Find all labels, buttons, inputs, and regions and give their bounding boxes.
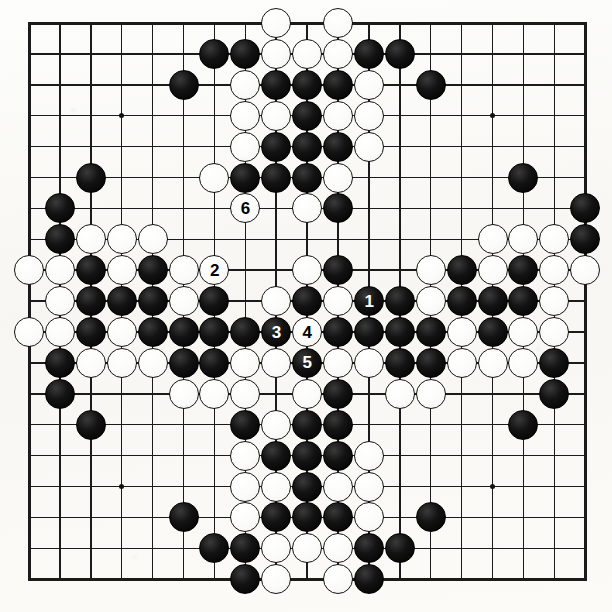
black-stone[interactable] [169, 348, 199, 378]
white-stone[interactable] [292, 255, 322, 285]
black-stone[interactable] [261, 70, 291, 100]
white-stone[interactable] [539, 317, 569, 347]
white-stone[interactable] [478, 348, 508, 378]
black-stone[interactable] [292, 101, 322, 131]
white-stone[interactable] [539, 255, 569, 285]
white-stone[interactable] [323, 564, 353, 594]
black-stone[interactable] [385, 286, 415, 316]
black-stone[interactable] [570, 224, 600, 254]
black-stone[interactable] [76, 317, 106, 347]
white-stone[interactable] [261, 348, 291, 378]
white-stone[interactable] [230, 379, 260, 409]
white-stone[interactable] [230, 441, 260, 471]
white-stone[interactable] [169, 255, 199, 285]
black-stone[interactable] [230, 410, 260, 440]
move-stone-2[interactable]: 2 [199, 255, 229, 285]
black-stone[interactable] [138, 286, 168, 316]
white-stone[interactable] [230, 132, 260, 162]
white-stone[interactable] [323, 39, 353, 69]
black-stone[interactable] [447, 286, 477, 316]
white-stone[interactable] [107, 255, 137, 285]
black-stone[interactable] [385, 39, 415, 69]
black-stone[interactable] [323, 441, 353, 471]
black-stone[interactable] [323, 132, 353, 162]
black-stone[interactable] [138, 317, 168, 347]
black-stone[interactable] [508, 410, 538, 440]
white-stone[interactable] [478, 255, 508, 285]
black-stone[interactable] [45, 379, 75, 409]
white-stone[interactable] [354, 502, 384, 532]
black-stone[interactable] [354, 39, 384, 69]
white-stone[interactable] [354, 348, 384, 378]
white-stone[interactable] [45, 317, 75, 347]
black-stone[interactable] [508, 286, 538, 316]
black-stone[interactable] [230, 39, 260, 69]
white-stone[interactable] [570, 255, 600, 285]
white-stone[interactable] [447, 317, 477, 347]
black-stone[interactable] [416, 502, 446, 532]
black-stone[interactable] [230, 533, 260, 563]
black-stone[interactable] [292, 410, 322, 440]
white-stone[interactable] [478, 224, 508, 254]
black-stone[interactable] [416, 70, 446, 100]
white-stone[interactable] [261, 286, 291, 316]
black-stone[interactable] [199, 286, 229, 316]
black-stone[interactable] [354, 317, 384, 347]
black-stone[interactable] [508, 163, 538, 193]
black-stone[interactable] [478, 317, 508, 347]
black-stone[interactable] [199, 39, 229, 69]
black-stone[interactable] [323, 410, 353, 440]
white-stone[interactable] [323, 8, 353, 38]
white-stone[interactable] [261, 410, 291, 440]
black-stone[interactable] [323, 317, 353, 347]
white-stone[interactable] [416, 255, 446, 285]
white-stone[interactable] [323, 533, 353, 563]
black-stone[interactable] [76, 286, 106, 316]
white-stone[interactable] [230, 472, 260, 502]
white-stone[interactable] [107, 348, 137, 378]
black-stone[interactable] [169, 502, 199, 532]
white-stone[interactable] [385, 379, 415, 409]
white-stone[interactable] [292, 533, 322, 563]
move-stone-3[interactable]: 3 [261, 317, 291, 347]
black-stone[interactable] [261, 163, 291, 193]
white-stone[interactable] [323, 163, 353, 193]
black-stone[interactable] [385, 533, 415, 563]
white-stone[interactable] [107, 317, 137, 347]
white-stone[interactable] [354, 101, 384, 131]
black-stone[interactable] [261, 502, 291, 532]
black-stone[interactable] [199, 533, 229, 563]
black-stone[interactable] [354, 564, 384, 594]
black-stone[interactable] [230, 564, 260, 594]
black-stone[interactable] [539, 348, 569, 378]
white-stone[interactable] [45, 286, 75, 316]
black-stone[interactable] [138, 255, 168, 285]
black-stone[interactable] [539, 379, 569, 409]
white-stone[interactable] [539, 286, 569, 316]
black-stone[interactable] [230, 163, 260, 193]
white-stone[interactable] [447, 348, 477, 378]
black-stone[interactable] [261, 441, 291, 471]
black-stone[interactable] [292, 502, 322, 532]
black-stone[interactable] [76, 410, 106, 440]
black-stone[interactable] [570, 193, 600, 223]
white-stone[interactable] [261, 39, 291, 69]
white-stone[interactable] [354, 132, 384, 162]
white-stone[interactable] [107, 224, 137, 254]
white-stone[interactable] [45, 255, 75, 285]
black-stone[interactable] [292, 441, 322, 471]
black-stone[interactable] [107, 286, 137, 316]
white-stone[interactable] [169, 379, 199, 409]
black-stone[interactable] [76, 255, 106, 285]
white-stone[interactable] [230, 101, 260, 131]
white-stone[interactable] [14, 255, 44, 285]
black-stone[interactable] [230, 317, 260, 347]
white-stone[interactable] [354, 70, 384, 100]
white-stone[interactable] [199, 379, 229, 409]
black-stone[interactable] [169, 70, 199, 100]
black-stone[interactable] [508, 255, 538, 285]
black-stone[interactable] [478, 286, 508, 316]
black-stone[interactable] [323, 255, 353, 285]
white-stone[interactable] [539, 224, 569, 254]
white-stone[interactable] [354, 441, 384, 471]
